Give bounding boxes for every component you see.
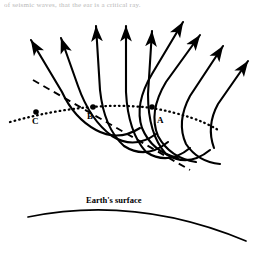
point-label-a: A bbox=[157, 116, 164, 125]
point-label-c: C bbox=[32, 117, 39, 126]
ray-paths-group bbox=[31, 22, 248, 164]
ray-path-9 bbox=[211, 61, 248, 148]
dashed-critical-line bbox=[33, 80, 190, 170]
seismic-ray-diagram bbox=[0, 0, 268, 258]
point-label-b: B bbox=[87, 112, 93, 121]
dotted-wavefront-line bbox=[10, 106, 218, 130]
ray-path-4 bbox=[126, 26, 190, 158]
point-marker-c bbox=[33, 109, 39, 115]
earth-surface-label: Earth's surface bbox=[86, 196, 141, 205]
earth-surface-arc bbox=[28, 210, 246, 241]
point-marker-b bbox=[90, 104, 96, 110]
ray-path-5 bbox=[148, 31, 210, 160]
point-marker-a bbox=[149, 104, 155, 110]
ray-path-7 bbox=[154, 35, 200, 162]
